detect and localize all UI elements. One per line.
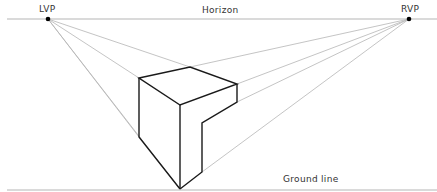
lvp-label: LVP	[39, 4, 56, 14]
rvp-point	[407, 17, 412, 22]
top-face	[139, 67, 237, 105]
lvp-point	[46, 17, 51, 22]
perspective-diagram	[0, 0, 437, 192]
rvp-guides	[190, 19, 409, 172]
right-face-notched	[180, 84, 237, 189]
rvp-label: RVP	[401, 4, 419, 14]
lvp-guides	[48, 19, 190, 189]
horizon-label: Horizon	[202, 5, 239, 15]
object-outline	[139, 67, 237, 189]
left-face	[139, 78, 180, 189]
ground-line-label: Ground line	[283, 174, 339, 184]
